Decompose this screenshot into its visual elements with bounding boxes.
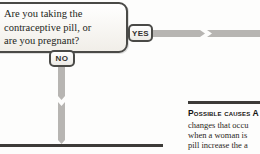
info-panel-rule	[188, 101, 260, 104]
yes-arrow-segment	[207, 30, 260, 37]
no-arrow-segment	[58, 66, 65, 100]
info-panel-line: when a woman is	[188, 130, 248, 140]
flowchart-page: Are you taking the contraceptive pill, o…	[0, 0, 260, 154]
bottom-rule	[0, 144, 163, 147]
yes-label-box: YES	[128, 24, 153, 42]
no-label: NO	[56, 54, 69, 63]
question-line: contraceptive pill, or	[4, 21, 91, 35]
info-panel-line: pill increase the a	[188, 140, 248, 150]
question-line: are you pregnant?	[4, 34, 91, 48]
yes-label: YES	[132, 29, 149, 38]
question-box: Are you taking the contraceptive pill, o…	[0, 2, 128, 53]
info-panel-heading: Possible causes A	[188, 108, 259, 118]
question-text: Are you taking the contraceptive pill, o…	[4, 7, 91, 48]
no-label-box: NO	[49, 50, 75, 67]
question-line: Are you taking the	[4, 7, 91, 21]
no-arrow-segment	[58, 102, 65, 144]
info-panel-body: changes that occu when a woman is pill i…	[188, 120, 248, 150]
yes-arrow-segment	[151, 30, 205, 37]
info-panel-line: changes that occu	[188, 120, 248, 130]
